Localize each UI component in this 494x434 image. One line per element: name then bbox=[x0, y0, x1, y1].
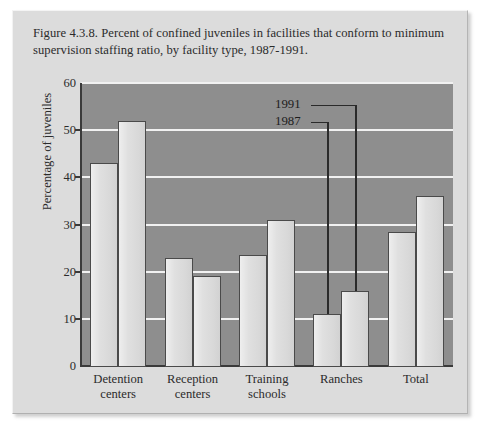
gridline bbox=[81, 82, 453, 84]
bar bbox=[90, 163, 118, 367]
bar bbox=[165, 258, 193, 367]
x-axis-category-line: Ranches bbox=[304, 372, 378, 387]
y-axis-tick-mark bbox=[75, 318, 81, 320]
x-axis-category-label: Ranches bbox=[304, 372, 378, 387]
bar bbox=[416, 196, 444, 367]
x-axis-category-line: Training bbox=[230, 372, 304, 387]
figure-panel: Figure 4.3.8. Percent of confined juveni… bbox=[12, 10, 468, 414]
y-axis-title: Percentage of juveniles bbox=[40, 32, 55, 272]
bar bbox=[118, 121, 146, 367]
x-axis-category-line: Detention bbox=[81, 372, 155, 387]
y-axis-tick-label: 10 bbox=[46, 311, 76, 326]
y-axis-tick-label: 0 bbox=[46, 359, 76, 374]
x-axis-category-line: centers bbox=[155, 387, 229, 402]
x-axis-category-label: Receptioncenters bbox=[155, 372, 229, 402]
figure-caption: Figure 4.3.8. Percent of confined juveni… bbox=[33, 25, 453, 59]
x-axis-category-label: Detentioncenters bbox=[81, 372, 155, 402]
x-axis-category-line: Total bbox=[379, 372, 453, 387]
x-axis-category-line: Reception bbox=[155, 372, 229, 387]
bar bbox=[313, 314, 341, 367]
x-axis-category-line: centers bbox=[81, 387, 155, 402]
bar bbox=[193, 276, 221, 367]
bar bbox=[388, 232, 416, 367]
y-axis-tick-mark bbox=[75, 176, 81, 178]
y-axis-tick-mark bbox=[75, 129, 81, 131]
y-axis-tick-mark bbox=[75, 224, 81, 226]
bar bbox=[239, 255, 267, 367]
legend-leader-vertical bbox=[327, 122, 328, 314]
y-axis-tick-mark bbox=[75, 271, 81, 273]
legend-label-1987: 1987 bbox=[275, 114, 301, 129]
x-axis-category-label: Total bbox=[379, 372, 453, 387]
legend-leader-horizontal bbox=[311, 122, 327, 123]
legend-leader-horizontal bbox=[311, 105, 355, 106]
bar bbox=[341, 291, 369, 367]
legend-label-1991: 1991 bbox=[275, 97, 301, 112]
bar bbox=[267, 220, 295, 367]
x-axis-category-line: schools bbox=[230, 387, 304, 402]
x-axis-category-label: Trainingschools bbox=[230, 372, 304, 402]
legend-leader-vertical bbox=[355, 105, 356, 291]
